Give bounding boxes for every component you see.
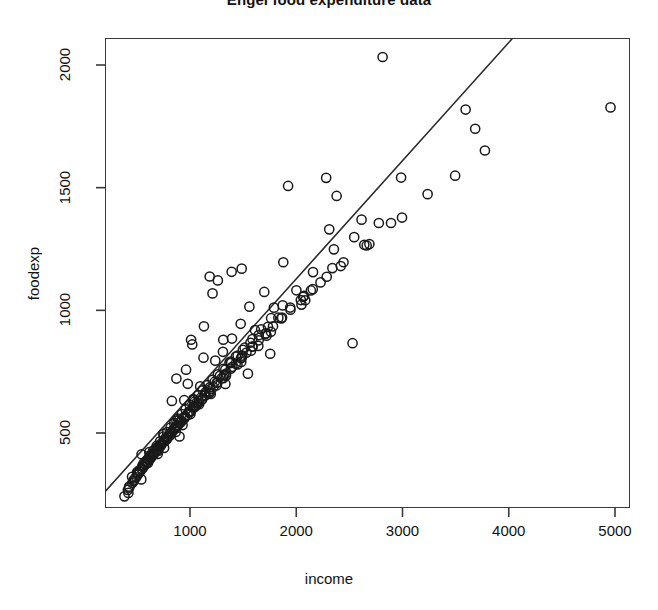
x-tick-label: 1000	[158, 522, 222, 539]
plot-area	[105, 38, 630, 508]
x-tick-label: 3000	[371, 522, 435, 539]
x-tick-label: 4000	[477, 522, 541, 539]
y-tick-label: 1500	[56, 160, 73, 214]
y-axis-title: foodexp	[25, 240, 42, 308]
y-tick-label: 500	[56, 406, 73, 460]
y-tick-label: 1000	[56, 283, 73, 337]
x-axis-title: income	[0, 570, 658, 587]
page-title: Engel food expenditure data	[0, 0, 658, 8]
y-tick-label: 2000	[56, 38, 73, 92]
x-tick-label: 2000	[264, 522, 328, 539]
x-tick-label: 5000	[583, 522, 647, 539]
chart-page: Engel food expenditure data 100020003000…	[0, 0, 658, 610]
